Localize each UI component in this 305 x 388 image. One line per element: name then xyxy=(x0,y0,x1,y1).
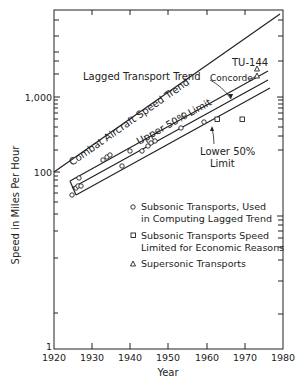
legend-item-2-line2: Limited for Economic Reasons xyxy=(141,242,284,253)
x-tick-1950: 1950 xyxy=(156,352,180,363)
lower-limit-label-2: Limit xyxy=(210,158,235,169)
legend: Subsonic Transports, Used in Computing L… xyxy=(131,201,285,269)
legend-item-1-line2: in Computing Lagged Trend xyxy=(141,213,272,224)
trend-lines xyxy=(54,14,280,195)
y-axis-label: Speed in Miles Per Hour xyxy=(10,145,21,265)
square-marker-icon xyxy=(131,233,136,238)
x-axis xyxy=(92,10,245,349)
x-tick-1960: 1960 xyxy=(195,352,219,363)
x-tick-1930: 1930 xyxy=(80,352,104,363)
x-tick-1920: 1920 xyxy=(42,352,66,363)
legend-item-1-line1: Subsonic Transports, Used xyxy=(141,201,266,212)
concorde-label: Concorde xyxy=(210,73,253,83)
legend-item-2-line1: Subsonic Transports Speed xyxy=(141,230,269,241)
tu144-label: TU-144 xyxy=(231,57,268,68)
triangle-marker-icon xyxy=(131,261,136,266)
x-tick-1940: 1940 xyxy=(118,352,142,363)
legend-item-3-line1: Supersonic Transports xyxy=(141,258,246,269)
x-tick-1980: 1980 xyxy=(271,352,295,363)
circle-marker-icon xyxy=(131,205,135,209)
lower-limit-label-1: Lower 50% xyxy=(200,146,255,157)
arrow-icon xyxy=(210,126,214,131)
y-tick-1000: 1,000 xyxy=(25,92,52,103)
y-tick-1: 1 xyxy=(46,341,52,352)
x-axis-label: Year xyxy=(156,367,179,378)
x-tick-1970: 1970 xyxy=(233,352,257,363)
y-tick-100: 100 xyxy=(34,167,52,178)
chart: 1920 1930 1940 1950 1960 1970 1980 Year … xyxy=(0,0,305,388)
economic-limited-points xyxy=(215,117,245,122)
